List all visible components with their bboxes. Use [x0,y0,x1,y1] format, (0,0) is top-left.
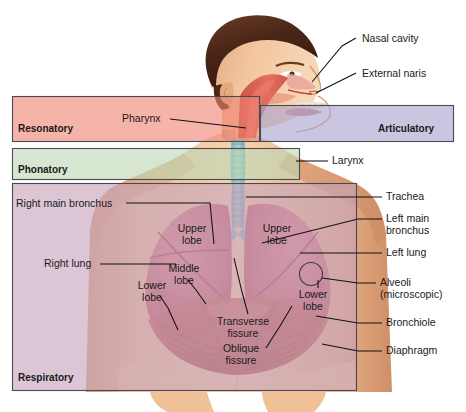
callout-oblique-fissure: Oblique fissure [206,343,276,366]
callout-diaphragm: Diaphragm [386,345,437,357]
callout-lower-lobe-right: Lower lobe [126,280,178,303]
callout-trachea: Trachea [386,191,424,203]
callout-lower-lobe-left: Lower lobe [287,289,339,312]
callout-right-lung: Right lung [44,258,91,270]
callout-left-lung: Left lung [386,247,426,259]
zone-label-articulatory: Articulatory [378,123,434,135]
callout-left-main-bronchus: Left main bronchus [386,213,429,236]
callout-external-naris: External naris [362,68,426,80]
callout-larynx: Larynx [332,155,364,167]
callout-alveoli: Alveoli (microscopic) [380,277,442,300]
zone-label-respiratory: Respiratory [18,372,74,384]
zone-label-phonatory: Phonatory [18,164,67,176]
callout-upper-lobe-left: Upper lobe [251,223,303,246]
callout-pharynx: Pharynx [122,113,161,125]
callout-transverse-fissure: Transverse fissure [208,316,278,339]
callout-bronchiole: Bronchiole [386,317,436,329]
respiratory-system-figure: Resonatory Articulatory Phonatory Respir… [0,0,466,412]
zone-label-resonatory: Resonatory [18,123,73,135]
callout-upper-lobe-right: Upper lobe [166,223,218,246]
callout-nasal-cavity: Nasal cavity [362,33,419,45]
callout-right-main-bronchus: Right main bronchus [16,198,112,210]
